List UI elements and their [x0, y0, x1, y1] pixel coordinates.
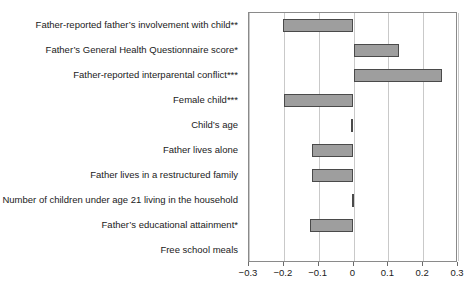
- bar-row: [249, 163, 456, 188]
- bar-row: [249, 188, 456, 213]
- bar-row: [249, 63, 456, 88]
- bar: [354, 44, 400, 57]
- category-label: Child’s age: [191, 112, 243, 137]
- category-label: Female child***: [173, 87, 243, 112]
- category-label: Father lives in a restructured family: [90, 162, 243, 187]
- x-tick: [248, 262, 249, 266]
- bar: [352, 194, 354, 207]
- bar-row: [249, 213, 456, 238]
- bar: [312, 169, 354, 182]
- plot-area: [248, 12, 457, 262]
- x-tick: [457, 262, 458, 266]
- bar-row: [249, 38, 456, 63]
- category-label: Father-reported interparental conflict**…: [73, 62, 243, 87]
- category-label: Father-reported father’s involvement wit…: [36, 12, 243, 37]
- bar: [354, 69, 442, 82]
- x-tick: [387, 262, 388, 266]
- x-tick: [283, 262, 284, 266]
- x-tick: [318, 262, 319, 266]
- bar: [312, 144, 354, 157]
- bar: [310, 219, 354, 232]
- bar: [283, 19, 353, 32]
- bar-row: [249, 138, 456, 163]
- bar-row: [249, 113, 456, 138]
- category-label: Father’s General Health Questionnaire sc…: [46, 37, 243, 62]
- bar: [284, 94, 354, 107]
- x-tick: [353, 262, 354, 266]
- bar-row: [249, 238, 456, 263]
- category-label: Free school meals: [160, 237, 243, 262]
- x-tick-label: 0.3: [437, 267, 475, 278]
- bar-row: [249, 13, 456, 38]
- bar-chart: Father-reported father’s involvement wit…: [0, 0, 475, 300]
- category-label: Father lives alone: [163, 137, 243, 162]
- category-label: Father’s educational attainment*: [102, 212, 243, 237]
- category-label: Number of children under age 21 living i…: [2, 187, 243, 212]
- bar: [351, 119, 353, 132]
- x-tick: [422, 262, 423, 266]
- category-axis: Father-reported father’s involvement wit…: [0, 12, 243, 262]
- gridline-6: [458, 13, 459, 261]
- bar-row: [249, 88, 456, 113]
